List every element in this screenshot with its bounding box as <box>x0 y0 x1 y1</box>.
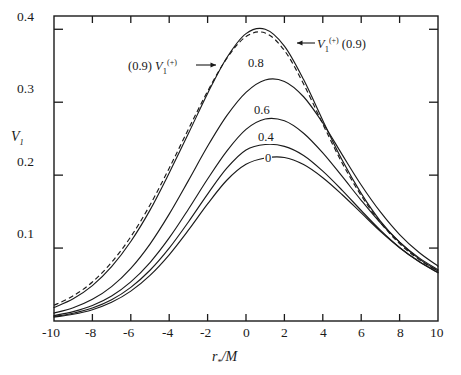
left-annotation-subscript: 1 <box>163 66 167 76</box>
y-axis-label-subscript: 1 <box>20 137 24 147</box>
x-axis-label-rest: /M <box>222 349 238 364</box>
x-tick-label--8: -8 <box>85 326 96 340</box>
left-annotation-prefix: (0.9) <box>128 59 152 73</box>
left-annotation: (0.9) V1(+) <box>128 59 177 75</box>
right-annotation-subscript: 1 <box>325 44 329 54</box>
y-tick-label-0.3: 0.3 <box>17 82 34 96</box>
right-annotation-suffix: (0.9) <box>342 37 366 51</box>
data-curve-0.8 <box>54 79 438 313</box>
y-axis-label: V1 <box>11 130 24 146</box>
x-tick-label-4: 4 <box>320 326 327 340</box>
y-axis-label-symbol: V <box>11 129 20 144</box>
x-tick-label--4: -4 <box>162 326 173 340</box>
y-tick-label-0.1: 0.1 <box>17 227 34 241</box>
left-annotation-symbol: V <box>155 59 163 73</box>
data-curve-V1+(0.9) <box>54 28 438 307</box>
data-curve-0 <box>54 157 438 317</box>
x-tick-label--2: -2 <box>200 326 211 340</box>
plot-svg <box>0 0 461 375</box>
left-annotation-superscript: (+) <box>167 58 177 67</box>
x-tick-label-10: 10 <box>430 326 444 340</box>
right-annotation: V1(+) (0.9) <box>317 37 366 53</box>
x-tick-label-2: 2 <box>281 326 288 340</box>
left-annotation-arrow-head <box>211 62 217 67</box>
x-tick-label--10: -10 <box>42 326 60 340</box>
curve-label-0.4: 0.4 <box>257 131 275 144</box>
data-curve-0.4 <box>54 144 438 316</box>
x-axis-label: r*/M <box>212 350 237 366</box>
x-tick-label-0: 0 <box>243 326 250 340</box>
x-tick-label--6: -6 <box>123 326 134 340</box>
curve-label-0.6: 0.6 <box>253 104 271 117</box>
curve-label-0: 0 <box>264 152 272 165</box>
y-tick-label-0.2: 0.2 <box>17 155 34 169</box>
x-tick-label-6: 6 <box>358 326 365 340</box>
data-curve-(0.9) V1+ <box>54 32 438 305</box>
right-annotation-symbol: V <box>317 37 325 51</box>
x-tick-label-8: 8 <box>397 326 404 340</box>
curve-label-0.8: 0.8 <box>247 57 265 70</box>
y-tick-label-0.4: 0.4 <box>17 10 34 24</box>
right-annotation-arrow-head <box>297 40 303 45</box>
figure-container: 0.4 0.3 0.2 0.1 V1 -10 -8 -6 -4 -2 0 2 4… <box>0 0 461 375</box>
right-annotation-superscript: (+) <box>329 36 339 45</box>
plot-frame <box>54 16 438 321</box>
